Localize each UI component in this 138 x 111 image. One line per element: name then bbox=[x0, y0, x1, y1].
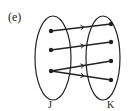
mapping-arrow-j2-k2 bbox=[51, 42, 111, 50]
element-dot-j2 bbox=[49, 48, 53, 52]
element-dot-j1 bbox=[49, 29, 53, 33]
element-dot-k4 bbox=[109, 78, 113, 82]
set-k-label: K bbox=[107, 99, 115, 110]
set-j-label: J bbox=[48, 99, 52, 110]
element-dot-k1 bbox=[109, 22, 113, 26]
set-j-ellipse bbox=[35, 16, 71, 100]
mapping-arrow-j3-k4 bbox=[51, 71, 111, 80]
mapping-arrow-j3-k3 bbox=[51, 61, 111, 71]
set-k-ellipse bbox=[86, 16, 120, 100]
mapping-diagram: (e) J K bbox=[0, 0, 138, 111]
figure-label: (e) bbox=[8, 10, 21, 24]
element-dot-k3 bbox=[109, 59, 113, 63]
element-dot-k2 bbox=[109, 40, 113, 44]
element-dot-j3 bbox=[49, 69, 53, 73]
